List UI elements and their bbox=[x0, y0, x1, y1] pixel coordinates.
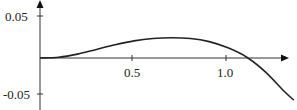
x-tick-label-1-0: 1.0 bbox=[217, 66, 233, 79]
x-tick-label-0-5: 0.5 bbox=[124, 66, 140, 79]
data-curve bbox=[40, 38, 294, 100]
chart-canvas bbox=[0, 0, 297, 110]
y-tick-label-bottom: -0.05 bbox=[3, 88, 30, 101]
y-tick-label-top: 0.05 bbox=[5, 10, 28, 23]
y-axis bbox=[37, 0, 44, 110]
